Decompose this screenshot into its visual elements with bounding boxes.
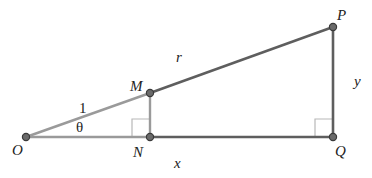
label-p: P — [336, 7, 346, 23]
point-p — [329, 23, 336, 30]
label-o: O — [12, 142, 23, 158]
label-n: N — [132, 144, 144, 160]
label-r: r — [176, 49, 182, 65]
point-m — [146, 89, 153, 96]
label-x: x — [173, 155, 181, 171]
label-theta: θ — [76, 119, 83, 135]
label-y: y — [352, 73, 361, 89]
label-q: Q — [335, 143, 346, 159]
point-q — [329, 133, 336, 140]
triangle-diagram: O N Q M P 1 θ r x y — [0, 0, 372, 178]
point-o — [22, 133, 29, 140]
point-n — [146, 133, 153, 140]
label-one: 1 — [79, 100, 87, 116]
label-m: M — [129, 78, 144, 94]
